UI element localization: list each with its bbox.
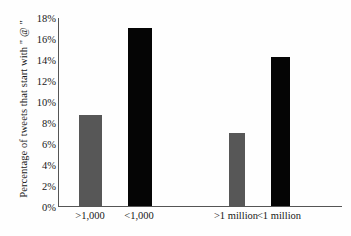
bar-chart: Percentage of tweets that start with " @… [0, 0, 351, 236]
y-tick-label: 16% [24, 34, 56, 45]
bar-3 [229, 133, 245, 207]
x-tick-label: >1,000 [75, 209, 105, 222]
x-tick-label: <1 million [257, 209, 301, 222]
y-tick-label: 6% [24, 139, 56, 150]
y-tick-label: 12% [24, 76, 56, 87]
bar-4 [271, 57, 290, 206]
y-tick-label: 18% [24, 13, 56, 24]
y-axis-tick-labels: 18%16%14%12%10%8%6%4%2%0% [24, 12, 56, 212]
x-tick-label: >1 million [214, 209, 258, 222]
y-tick-label: 10% [24, 97, 56, 108]
y-tick-label: 8% [24, 118, 56, 129]
y-tick-label: 14% [24, 55, 56, 66]
x-axis-tick-labels: >1,000<1,000>1 million<1 million [58, 209, 348, 231]
y-tick-label: 2% [24, 181, 56, 192]
y-tick-label: 0% [24, 202, 56, 213]
y-tick-label: 4% [24, 160, 56, 171]
bar-2 [128, 28, 152, 207]
x-tick-label: <1,000 [124, 209, 154, 222]
bar-1 [79, 115, 102, 206]
plot-area [58, 18, 342, 207]
